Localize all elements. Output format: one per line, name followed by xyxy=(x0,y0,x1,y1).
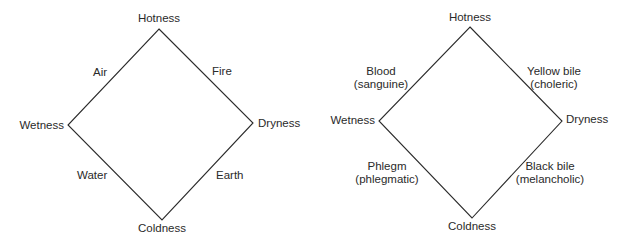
vertex-wetness: Wetness xyxy=(19,119,64,132)
humour-name: Black bile xyxy=(516,160,584,173)
vertex-wetness: Wetness xyxy=(330,114,375,127)
edge-earth: Earth xyxy=(216,169,244,182)
temperament: (choleric) xyxy=(527,78,581,91)
vertex-hotness: Hotness xyxy=(449,11,491,24)
humours-diamond xyxy=(379,27,562,218)
edge-water: Water xyxy=(77,169,107,182)
humour-name: Yellow bile xyxy=(527,65,581,78)
vertex-dryness: Dryness xyxy=(258,117,300,130)
humour-name: Blood xyxy=(354,65,408,78)
edge-phlegm: Phlegm (phlegmatic) xyxy=(355,160,418,186)
vertex-coldness: Coldness xyxy=(448,220,496,233)
vertex-dryness: Dryness xyxy=(566,113,608,126)
temperament: (sanguine) xyxy=(354,78,408,91)
edge-blood: Blood (sanguine) xyxy=(354,65,408,91)
vertex-hotness: Hotness xyxy=(138,12,180,25)
edge-black-bile: Black bile (melancholic) xyxy=(516,160,584,186)
edge-fire: Fire xyxy=(212,65,232,78)
edge-air: Air xyxy=(93,66,107,79)
diagram-canvas xyxy=(0,0,624,246)
humour-name: Phlegm xyxy=(355,160,418,173)
temperament: (phlegmatic) xyxy=(355,173,418,186)
elements-diamond xyxy=(68,29,253,220)
edge-yellow-bile: Yellow bile (choleric) xyxy=(527,65,581,91)
temperament: (melancholic) xyxy=(516,173,584,186)
vertex-coldness: Coldness xyxy=(138,222,186,235)
